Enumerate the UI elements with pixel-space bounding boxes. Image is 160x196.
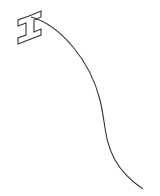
curve-line: [31, 17, 143, 189]
drawing-canvas: [0, 0, 160, 196]
i-beam-icon: [18, 11, 41, 44]
